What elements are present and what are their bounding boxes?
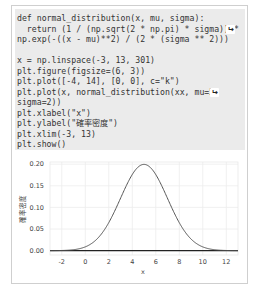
code-line: plt.xlabel("x") [17,108,91,119]
x-axis-label: x [141,268,145,276]
y-tick-label: 0.10 [30,204,44,212]
code-line: plt.plot([-4, 14], [0, 0], c="k") [17,76,180,87]
x-tick-label: 6 [154,258,158,266]
x-tick-label: 4 [130,258,134,266]
code-line: plt.xlim(-3, 13) [17,129,96,140]
x-tick-label: 12 [222,258,230,266]
code-line: plt.show() [17,139,66,150]
line-continuation-icon: ↵ [210,88,219,97]
chart: 0.000.050.100.150.20 -2024681012 x 確率密度 [12,152,247,283]
code-line: plt.figure(figsize=(6, 3)) [17,66,145,77]
y-axis-label: 確率密度 [18,195,27,223]
x-tick-label: 0 [83,258,87,266]
x-tick-label: 8 [177,258,181,266]
code-line: np.exp(-((x - mu)**2) / (2 * (sigma ** 2… [17,34,229,45]
line-continuation-icon: ↵ [226,25,235,34]
chart-grid [50,162,238,255]
x-tick-labels: -2024681012 [59,258,231,266]
code-line: plt.ylabel("確率密度") [17,118,118,129]
y-tick-label: 0.20 [30,160,44,168]
code-line: return (1 / (np.sqrt(2 * np.pi) * sigma)… [17,24,239,35]
code-line: sigma=2)) [17,97,61,108]
y-tick-label: 0.05 [30,225,44,233]
x-tick-label: 10 [199,258,207,266]
plot-area [50,162,238,255]
x-tick-label: 2 [107,258,111,266]
code-line: x = np.linspace(-3, 13, 301) [17,55,155,66]
y-tick-label: 0.00 [30,247,44,255]
y-tick-label: 0.15 [30,182,44,190]
code-line: plt.plot(x, normal_distribution(xx, mu=5… [17,87,219,98]
x-tick-label: -2 [59,258,65,266]
code-line: def normal_distribution(x, mu, sigma): [17,13,204,24]
y-tick-labels: 0.000.050.100.150.20 [30,160,44,255]
